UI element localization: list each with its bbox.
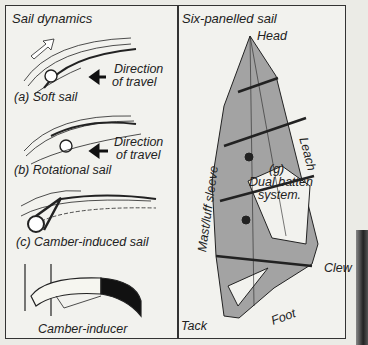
- camber-inducer-diagram: [25, 264, 141, 316]
- caption-soft-sail: (a) Soft sail: [14, 91, 77, 104]
- caption-camber-inducer: Camber-inducer: [38, 323, 127, 336]
- direction-label-a2: of travel: [112, 76, 156, 89]
- caption-camber-induced-sail: (c) Camber-induced sail: [16, 236, 148, 249]
- label-head: Head: [257, 30, 287, 43]
- direction-arrow-icon: [91, 72, 106, 82]
- direction-label-b2: of travel: [116, 149, 160, 162]
- caption-rotational-sail: (b) Rotational sail: [14, 164, 111, 177]
- page-edge-shadow: [356, 230, 368, 345]
- diagram-frame: Sail dynamics Direction of travel (a) So…: [5, 5, 346, 339]
- label-system: system.: [258, 189, 301, 202]
- six-panelled-sail-title: Six-panelled sail: [182, 12, 277, 25]
- label-clew: Clew: [324, 262, 352, 275]
- label-tack: Tack: [181, 320, 207, 333]
- direction-arrow-icon: [91, 146, 108, 156]
- sail-dynamics-title: Sail dynamics: [12, 12, 92, 25]
- camber-induced-sail-diagram: [21, 191, 156, 232]
